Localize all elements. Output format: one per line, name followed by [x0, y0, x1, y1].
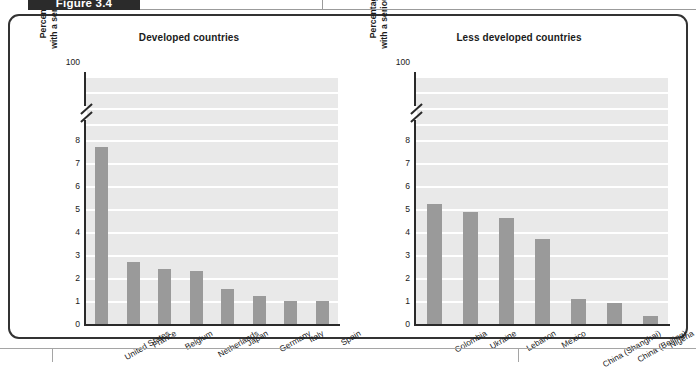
- y-tick-label: 3: [54, 251, 80, 259]
- y-tick-label: 7: [54, 159, 80, 167]
- bar: [535, 239, 550, 324]
- y-tick-label: 100: [384, 58, 410, 66]
- y-tick-label: 0: [54, 320, 80, 328]
- bar: [95, 147, 108, 324]
- y-tick-label: 1: [54, 297, 80, 305]
- footer-rule-separator-left: [52, 348, 53, 362]
- bar: [253, 296, 266, 324]
- x-tick-label: Colombia: [453, 328, 489, 354]
- bar: [284, 301, 297, 324]
- bar: [643, 316, 658, 324]
- y-tick-label: 0: [384, 320, 410, 328]
- y-tick-label: 5: [384, 205, 410, 213]
- y-tick-label: 8: [384, 136, 410, 144]
- y-tick-label: 1: [384, 297, 410, 305]
- figure-number-label: Figure 3.4: [56, 0, 112, 9]
- y-axis-ticks-less-developed: 012345678100: [376, 32, 410, 332]
- x-axis-line-less-developed: [414, 324, 670, 326]
- x-axis-line-developed: [84, 324, 340, 326]
- y-tick-label: 5: [54, 205, 80, 213]
- bar: [221, 289, 234, 324]
- y-tick-label: 100: [54, 58, 80, 66]
- y-tick-label: 2: [54, 274, 80, 282]
- y-tick-label: 4: [384, 228, 410, 236]
- bar: [463, 212, 478, 324]
- y-tick-label: 6: [54, 182, 80, 190]
- bar-series-less-developed: [416, 76, 668, 324]
- bar: [127, 262, 140, 324]
- header-rule: [140, 0, 696, 10]
- y-tick-label: 3: [384, 251, 410, 259]
- x-tick-label: Germany: [278, 328, 313, 354]
- chart-panel-developed: Developed countries Percentage of popula…: [24, 32, 354, 332]
- figure-number-tab: Figure 3.4: [28, 0, 140, 10]
- y-tick-label: 6: [384, 182, 410, 190]
- x-tick-label: Lebanon: [524, 328, 557, 353]
- x-tick-label: Mexico: [560, 328, 588, 350]
- bar: [158, 269, 171, 324]
- y-tick-label: 7: [384, 159, 410, 167]
- bar: [427, 204, 442, 324]
- header-rule-separator: [322, 0, 323, 10]
- bar-series-developed: [86, 76, 338, 324]
- bar: [316, 301, 329, 324]
- footer-rule-separator-right: [518, 348, 519, 362]
- y-tick-label: 8: [54, 136, 80, 144]
- bar: [190, 271, 203, 324]
- figure-frame: Developed countries Percentage of popula…: [8, 14, 688, 339]
- y-tick-label: 2: [384, 274, 410, 282]
- bar: [607, 303, 622, 324]
- x-tick-label: Italy: [307, 328, 325, 344]
- bar: [571, 299, 586, 324]
- bar: [499, 218, 514, 324]
- y-tick-label: 4: [54, 228, 80, 236]
- chart-panel-less-developed: Less developed countries Percentage of p…: [354, 32, 684, 332]
- y-axis-ticks-developed: 012345678100: [46, 32, 80, 332]
- footer-rule: [0, 348, 696, 349]
